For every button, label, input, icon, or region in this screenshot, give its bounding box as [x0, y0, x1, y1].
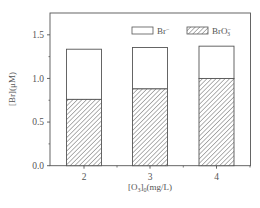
bar-bro3 — [67, 99, 102, 165]
bar-stack — [133, 47, 168, 165]
legend: Br− BrO−3 — [132, 26, 232, 37]
y-tick-label: 1.0 — [32, 74, 44, 84]
bar-br — [199, 46, 234, 78]
y-tick-label: 0.0 — [32, 161, 44, 171]
bar-bro3 — [199, 78, 234, 165]
bar-br — [67, 49, 102, 99]
x-axis-title: [O3]0(mg/L) — [128, 182, 172, 193]
y-tick-label: 0.5 — [32, 117, 44, 127]
bar-stack — [67, 49, 102, 165]
x-tick-label: 3 — [148, 172, 153, 182]
legend-label-br: Br− — [157, 26, 170, 36]
bar-br — [133, 47, 168, 88]
x-tick-label: 4 — [214, 172, 219, 182]
y-axis-title: [Br](μM) — [7, 72, 17, 106]
legend-swatch-br — [132, 27, 153, 34]
bar-bro3 — [133, 89, 168, 166]
y-axis-ticks: 0.00.51.01.5 — [32, 30, 50, 171]
y-tick-label: 1.5 — [32, 30, 44, 40]
legend-label-bro3: BrO−3 — [212, 26, 232, 37]
legend-swatch-bro3 — [187, 27, 208, 34]
x-tick-label: 2 — [82, 172, 87, 182]
bars-group — [67, 46, 235, 166]
x-axis-ticks: 234 — [82, 166, 250, 182]
bar-chart: 0.00.51.01.5 234 Br− BrO−3 [Br](μM) [O3]… — [0, 0, 260, 208]
bar-stack — [199, 46, 234, 166]
